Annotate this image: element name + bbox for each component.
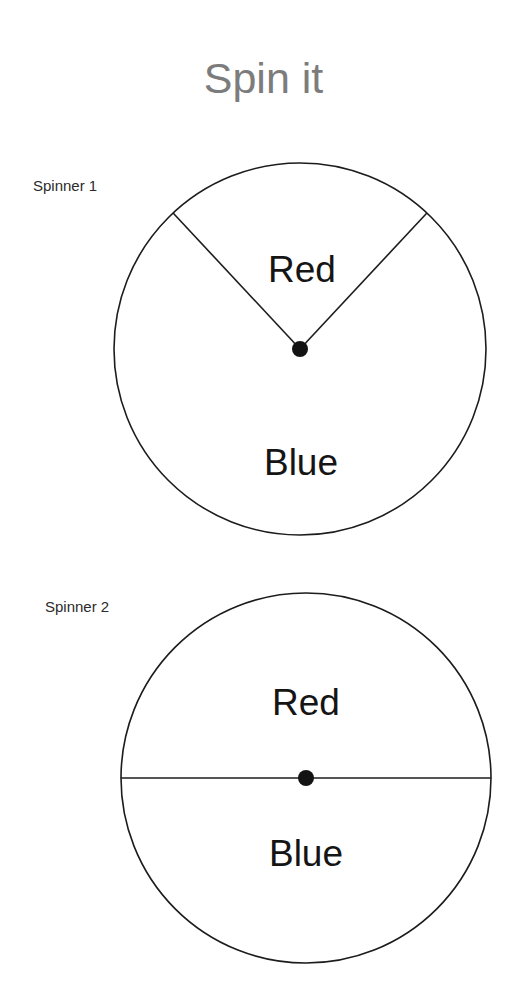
spinner-2-figure: Red Blue — [114, 586, 504, 976]
spinner-1-label: Spinner 1 — [33, 177, 97, 195]
spinner-2-sector-label-blue: Blue — [269, 833, 343, 874]
page-title: Spin it — [0, 52, 527, 104]
spinner-1-figure: Red Blue — [108, 157, 498, 547]
spinner-1-sector-label-red: Red — [268, 249, 336, 290]
spinner-2-center-hub — [298, 770, 314, 786]
spinner-1-sector-label-blue: Blue — [264, 442, 338, 483]
spinner-2-sector-label-red: Red — [272, 682, 340, 723]
spinner-2-wheel: Red Blue — [114, 586, 504, 976]
spinner-worksheet-page: Spin it Spinner 1 Red Blue Spinner 2 Red… — [0, 0, 527, 1002]
spinner-2-label: Spinner 2 — [45, 598, 109, 616]
spinner-1-wheel: Red Blue — [108, 157, 498, 547]
spinner-1-center-hub — [292, 341, 308, 357]
